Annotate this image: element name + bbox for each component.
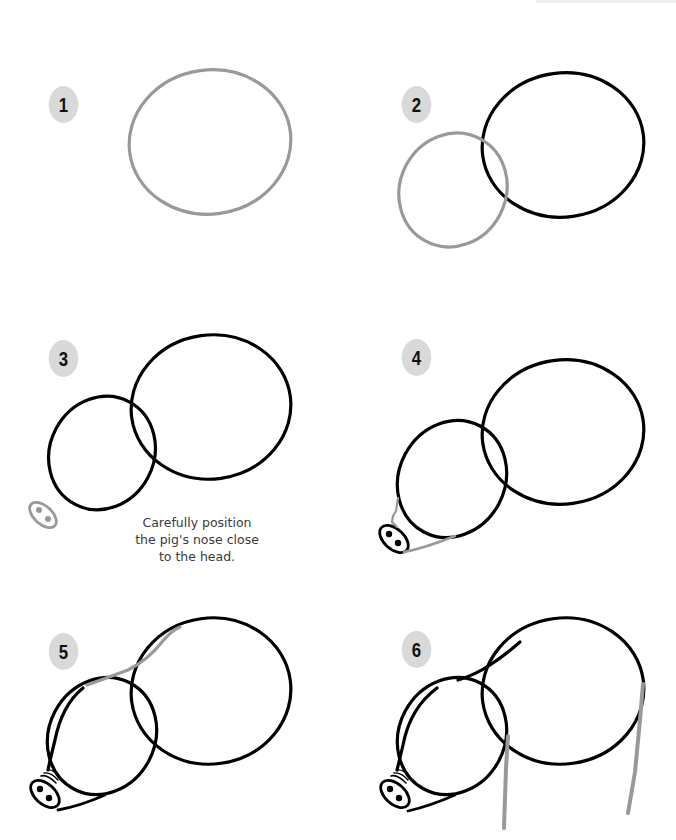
body-oval xyxy=(120,59,300,224)
pig-drawing-steps xyxy=(0,0,676,840)
snout xyxy=(376,770,415,813)
head-oval xyxy=(379,114,527,266)
body-oval xyxy=(473,349,653,514)
caption-line-2: the pig's nose close xyxy=(118,531,276,548)
step-4-drawing xyxy=(375,349,654,557)
head-oval xyxy=(27,658,177,814)
snout-bottom-connector xyxy=(404,536,455,552)
back-leg-line xyxy=(628,684,643,813)
tutorial-page: 1 2 3 4 5 6 Carefully position the pig's… xyxy=(0,0,676,840)
snout-bottom-connector xyxy=(408,795,455,811)
step-badge-2: 2 xyxy=(402,86,432,123)
body-oval xyxy=(473,607,654,774)
head-outline-left xyxy=(48,688,83,770)
body-oval xyxy=(122,325,300,490)
head-outline-left xyxy=(397,688,437,770)
caption-line-1: Carefully position xyxy=(118,514,276,531)
step-3-caption: Carefully position the pig's nose close … xyxy=(118,514,276,565)
snout-bottom-connector xyxy=(58,795,105,810)
step-badge-6: 6 xyxy=(402,631,432,668)
snout xyxy=(26,770,65,813)
body-oval xyxy=(122,608,301,775)
step-badge-4: 4 xyxy=(402,339,432,376)
caption-line-3: to the head. xyxy=(118,548,276,565)
body-oval xyxy=(473,62,653,227)
head-oval xyxy=(29,377,175,528)
head-oval xyxy=(377,401,527,557)
step-badge-1: 1 xyxy=(49,86,79,123)
step-badge-3: 3 xyxy=(49,340,79,377)
step-badge-5: 5 xyxy=(49,633,79,670)
snout xyxy=(25,498,61,533)
step-1-drawing xyxy=(120,59,300,224)
snout-top-connector xyxy=(392,498,398,527)
